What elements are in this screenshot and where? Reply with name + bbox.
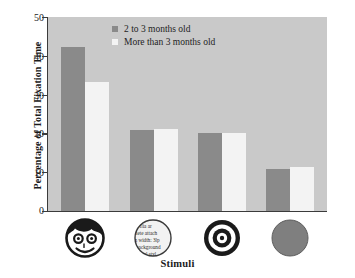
bullseye-icon — [200, 216, 244, 260]
legend-swatch-light-icon — [112, 39, 118, 45]
face-icon — [63, 216, 107, 260]
y-axis-title: Percentage of Total Fixation Time — [32, 16, 43, 216]
bar-bullseye-2to3 — [198, 133, 222, 211]
y-tick-label-0: 0 — [22, 206, 44, 216]
legend-label-1: More than 3 months old — [124, 37, 215, 47]
scrambled-face-icon: flia ar iete attach n width: 3lp backgro… — [131, 216, 175, 260]
legend-label-0: 2 to 3 months old — [124, 24, 191, 34]
bar-bullseye-more3 — [222, 133, 246, 211]
bar-scrambled-more3 — [154, 129, 178, 211]
bar-chart-figure: Percentage of Total Fixation Time 50 40 … — [0, 0, 355, 278]
x-axis-line — [47, 211, 327, 212]
y-tick-label-10: 10 — [22, 168, 44, 178]
stimulus-bullseye — [200, 216, 244, 260]
stimuli-icon-row: flia ar iete attach n width: 3lp backgro… — [48, 216, 327, 260]
scrambled-text-line-1: iete attach — [136, 230, 158, 236]
y-tick-label-40: 40 — [22, 52, 44, 62]
scrambled-text-line-2: n width: 3lp — [135, 237, 160, 243]
stimulus-scrambled-face: flia ar iete attach n width: 3lp backgro… — [131, 216, 175, 260]
bar-blankdisc-more3 — [290, 167, 314, 211]
y-tick-label-30: 30 — [22, 91, 44, 101]
bar-face-more3 — [85, 82, 109, 211]
y-tick-label-50: 50 — [22, 13, 44, 23]
legend-item-1: More than 3 months old — [112, 36, 215, 48]
bar-blankdisc-2to3 — [266, 169, 290, 211]
bar-face-2to3 — [61, 47, 85, 212]
blank-disc-icon — [268, 216, 312, 260]
stimulus-face — [63, 216, 107, 260]
legend-item-0: 2 to 3 months old — [112, 23, 215, 35]
y-tick-label-20: 20 — [22, 129, 44, 139]
plot-area: 2 to 3 months old More than 3 months old — [48, 17, 327, 211]
x-axis-title: Stimuli — [0, 258, 355, 269]
stimulus-blank-disc — [268, 216, 312, 260]
legend-swatch-dark-icon — [112, 26, 118, 32]
y-axis-line — [47, 17, 48, 212]
legend: 2 to 3 months old More than 3 months old — [112, 23, 215, 49]
bar-scrambled-2to3 — [130, 130, 154, 211]
scrambled-text-line-3: background — [136, 244, 161, 250]
